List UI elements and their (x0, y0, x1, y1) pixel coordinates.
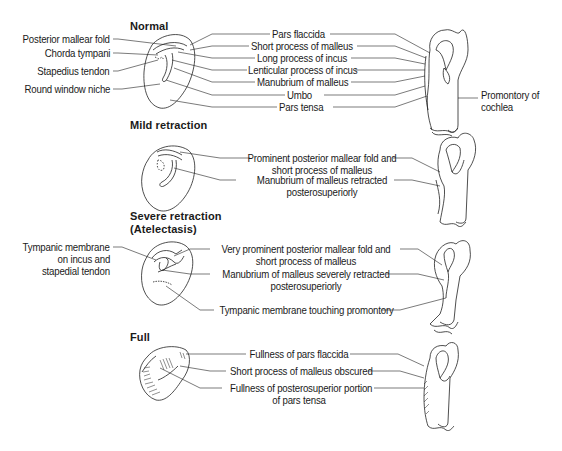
label-mild-manubrium-line1: Manubrium of malleus retracted (239, 174, 405, 186)
normal-side-view (425, 30, 468, 136)
full-tympanic-membrane (140, 347, 190, 401)
normal-tympanic-membrane (144, 35, 195, 109)
label-fullness-posterosuperior-line1: Fullness of posterosuperior portion (230, 382, 368, 394)
label-round-window-niche: Round window niche (24, 83, 110, 95)
label-tm-on-incus-line3: stapedial tendon (42, 265, 110, 277)
label-severe-fold-line2: short process of malleus (220, 255, 393, 267)
heading-severe-retraction: Severe retraction (130, 210, 222, 223)
label-short-process-obscured: Short process of malleus obscured (230, 365, 368, 377)
normal-left-leaders (113, 39, 176, 89)
label-mild-prominent-fold-line1: Prominent posterior mallear fold and (239, 152, 405, 164)
label-promontory-line1: Promontory of (481, 89, 539, 101)
mild-side-view (436, 133, 476, 226)
label-umbo: Umbo (287, 89, 312, 101)
label-pars-flaccida: Pars flaccida (272, 28, 325, 40)
heading-mild-retraction: Mild retraction (130, 119, 207, 132)
label-fullness-pars-flaccida: Fullness of pars flaccida (230, 348, 368, 360)
label-mild-manubrium-line2: posterosuperiorly (239, 186, 405, 198)
label-tm-on-incus-line1: Tympanic membrane (23, 241, 110, 253)
label-posterior-mallear-fold: Posterior mallear fold (23, 33, 110, 45)
mild-tympanic-membrane (142, 146, 195, 211)
label-lenticular-process-incus: Lenticular process of incus (248, 64, 357, 76)
label-chorda-tympani: Chorda tympani (44, 47, 110, 59)
label-stapedius-tendon: Stapedius tendon (38, 65, 110, 77)
label-tm-on-incus-line2: on incus and (57, 253, 110, 265)
heading-atelectasis: (Atelectasis) (130, 223, 197, 236)
label-promontory-line2: cochlea (481, 101, 513, 113)
label-pars-tensa: Pars tensa (279, 101, 323, 113)
label-short-process-malleus: Short process of malleus (251, 40, 353, 52)
label-manubrium-malleus: Manubrium of malleus (257, 76, 348, 88)
label-severe-manubrium-line1: Manubrium of malleus severely retracted (220, 268, 393, 280)
label-long-process-incus: Long process of incus (257, 52, 347, 64)
label-fullness-posterosuperior-line2: of pars tensa (230, 394, 368, 406)
heading-normal: Normal (130, 20, 169, 33)
heading-full: Full (130, 331, 150, 344)
label-severe-manubrium-line2: posterosuperiorly (220, 280, 393, 292)
label-severe-tm-promontory: Tympanic membrane touching promontory (220, 304, 393, 316)
severe-side-view (430, 241, 470, 334)
full-side-view (424, 343, 458, 431)
label-severe-fold-line1: Very prominent posterior mallear fold an… (220, 243, 393, 255)
